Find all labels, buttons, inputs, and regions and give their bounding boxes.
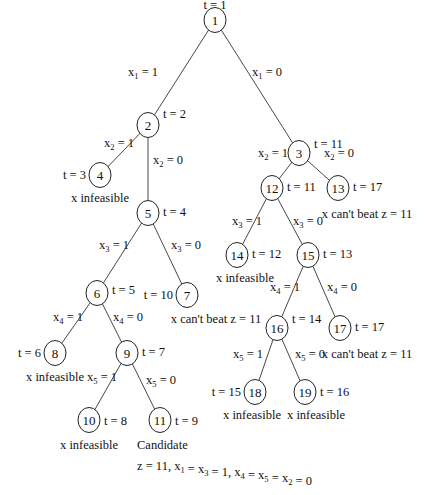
- node-status-note: Candidate: [137, 438, 188, 452]
- tree-node-10: 10: [78, 408, 100, 433]
- node-number: 7: [184, 288, 191, 303]
- tree-node-15: 15: [297, 243, 319, 268]
- branch-label: x2 = 0: [153, 153, 183, 169]
- tree-node-4: 4: [89, 163, 111, 188]
- node-number: 8: [52, 346, 59, 361]
- iteration-label: t = 11: [314, 137, 343, 151]
- branch-and-bound-tree: x1 = 1x1 = 0x2 = 1x2 = 0x2 = 1x2 = 0x3 =…: [0, 0, 431, 495]
- tree-node-5: 5: [137, 201, 159, 226]
- node-annotations: t = 1t = 2t = 11t = 3x infeasiblet = 4t …: [18, 0, 412, 452]
- node-number: 16: [271, 321, 285, 336]
- node-status-note: x can't beat z = 11: [171, 312, 261, 326]
- node-number: 17: [334, 321, 348, 336]
- node-number: 6: [94, 286, 101, 301]
- node-number: 12: [266, 181, 279, 196]
- branch-label: x4 = 1: [270, 280, 300, 296]
- branch-label: x3 = 1: [99, 238, 129, 254]
- iteration-label: t = 15: [212, 385, 241, 399]
- tree-node-14: 14: [226, 243, 248, 268]
- node-number: 3: [296, 146, 303, 161]
- node-number: 13: [332, 181, 345, 196]
- iteration-label: t = 5: [112, 283, 135, 297]
- branch-label: x5 = 1: [87, 370, 117, 386]
- node-status-note: x can't beat z = 11: [322, 347, 412, 361]
- node-number: 15: [302, 248, 315, 263]
- iteration-label: t = 17: [353, 180, 382, 194]
- node-status-note: x infeasible: [60, 438, 118, 452]
- iteration-label: t = 10: [144, 288, 173, 302]
- node-status-note: x infeasible: [71, 191, 129, 205]
- node-status-note: x infeasible: [287, 408, 345, 422]
- node-status-note: x infeasible: [216, 271, 274, 285]
- branch-label: x3 = 1: [232, 214, 262, 230]
- tree-node-2: 2: [137, 113, 159, 138]
- iteration-label: t = 8: [104, 414, 127, 428]
- iteration-label: t = 12: [252, 247, 281, 261]
- iteration-label: t = 2: [163, 107, 186, 121]
- iteration-label: t = 6: [18, 346, 41, 360]
- branch-label: x5 = 0: [146, 373, 176, 389]
- tree-node-17: 17: [329, 316, 351, 341]
- branch-label: x4 = 0: [113, 310, 143, 326]
- node-status-note: x can't beat z = 11: [322, 207, 412, 221]
- branch-label: x3 = 0: [171, 238, 201, 254]
- branch-label: x4 = 1: [53, 310, 83, 326]
- node-number: 11: [154, 413, 167, 428]
- node-number: 9: [124, 346, 131, 361]
- iteration-label: t = 9: [175, 414, 198, 428]
- node-status-note: x infeasible: [223, 408, 281, 422]
- branch-label: x1 = 1: [128, 65, 158, 81]
- node-number: 1: [212, 13, 219, 28]
- tree-node-6: 6: [86, 281, 108, 306]
- tree-edge: [221, 29, 293, 143]
- tree-node-18: 18: [244, 380, 266, 405]
- tree-node-16: 16: [266, 316, 288, 341]
- tree-node-9: 9: [116, 341, 138, 366]
- tree-edge: [153, 223, 183, 285]
- tree-edge: [307, 160, 330, 180]
- iteration-label: t = 11: [287, 180, 316, 194]
- tree-node-7: 7: [176, 283, 198, 308]
- iteration-label: t = 3: [63, 168, 86, 182]
- node-number: 2: [145, 118, 152, 133]
- branch-label: x2 = 1: [258, 146, 288, 162]
- node-number: 10: [83, 413, 96, 428]
- iteration-label: t = 13: [323, 247, 352, 261]
- tree-node-12: 12: [261, 176, 283, 201]
- tree-node-13: 13: [327, 176, 349, 201]
- node-number: 19: [299, 385, 312, 400]
- branch-label: x4 = 0: [327, 280, 357, 296]
- tree-node-8: 8: [44, 341, 66, 366]
- tree-node-19: 19: [294, 380, 316, 405]
- branch-label: x1 = 0: [252, 65, 282, 81]
- iteration-label: t = 4: [163, 205, 187, 219]
- iteration-label: t = 7: [142, 345, 165, 359]
- branch-label: x5 = 0: [295, 347, 325, 363]
- iteration-label: t = 17: [355, 320, 384, 334]
- branch-label: x3 = 0: [293, 214, 323, 230]
- node-number: 18: [249, 385, 262, 400]
- node-number: 5: [145, 206, 152, 221]
- tree-edge: [154, 29, 209, 115]
- tree-edge: [279, 162, 293, 180]
- node-status-note: x infeasible: [26, 370, 84, 384]
- optimal-solution-text: z = 11, x1 = x3 = 1, x4 = x5 = x2 = 0: [137, 459, 312, 488]
- tree-node-3: 3: [288, 141, 310, 166]
- branch-label: x2 = 1: [104, 136, 134, 152]
- tree-node-11: 11: [149, 408, 171, 433]
- node-number: 14: [231, 248, 245, 263]
- iteration-label: t = 16: [320, 385, 349, 399]
- branch-label: x5 = 1: [233, 347, 263, 363]
- iteration-label: t = 1: [203, 0, 226, 12]
- iteration-label: t = 14: [292, 312, 322, 326]
- branch-labels: x1 = 1x1 = 0x2 = 1x2 = 0x2 = 1x2 = 0x3 =…: [53, 65, 357, 389]
- node-number: 4: [97, 168, 104, 183]
